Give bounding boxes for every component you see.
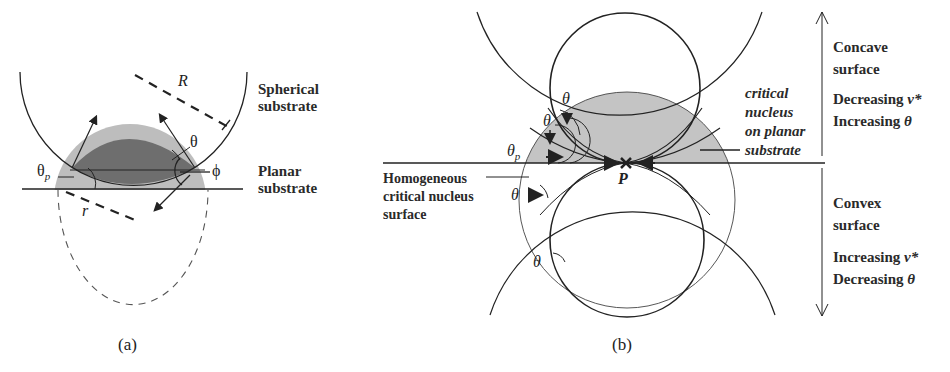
label-theta-low: θ <box>511 186 519 204</box>
label-R: R <box>178 72 188 90</box>
label-phi: ϕ <box>212 162 220 180</box>
convex-line1: Convex <box>833 192 881 214</box>
concave-trend-label: Decreasing v* Increasing θ <box>833 88 921 132</box>
concave-line2: surface <box>833 58 888 80</box>
label-P: P <box>618 170 628 188</box>
label-theta-p-b: θp <box>507 142 520 162</box>
label-theta-a: θ <box>190 133 198 151</box>
panel-a-figure <box>20 72 247 305</box>
convex-trend-label: Increasing v* Decreasing θ <box>833 246 918 290</box>
label-r: r <box>82 202 88 220</box>
caption-b: (b) <box>612 335 632 355</box>
concave-surface-label: Concave surface <box>833 36 888 80</box>
spherical-line1: Spherical <box>258 81 319 98</box>
convex-surface-label: Convex surface <box>833 192 881 236</box>
panel-b-figure <box>383 12 828 317</box>
spherical-substrate-label: Spherical substrate <box>258 81 319 115</box>
label-theta-p-a: θp <box>37 162 50 182</box>
label-theta-bottom: θ <box>533 253 541 271</box>
dashed-circle <box>58 190 208 305</box>
label-theta-mid: θ <box>543 112 551 130</box>
convex-line2: surface <box>833 214 881 236</box>
critical-nucleus-cap <box>519 92 735 308</box>
radius-r-dashed <box>66 192 135 220</box>
diagram-canvas <box>0 0 950 372</box>
caption-a: (a) <box>118 335 137 355</box>
planar-substrate-label: Planar substrate <box>258 163 317 197</box>
concave-line1: Concave <box>833 36 888 58</box>
planar-line2: substrate <box>258 180 317 197</box>
planar-line1: Planar <box>258 163 317 180</box>
label-theta-top: θ <box>562 90 570 108</box>
critical-nucleus-label: critical nucleus on planar substrate <box>745 84 805 160</box>
spherical-line2: substrate <box>258 98 319 115</box>
homogeneous-label: Homogeneous critical nucleus surface <box>383 170 474 224</box>
